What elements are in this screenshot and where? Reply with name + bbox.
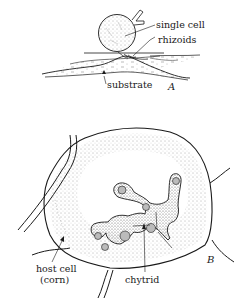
label-host-cell: host cell <box>36 263 77 274</box>
label-chytrid: chytrid <box>125 274 159 285</box>
chytrid-shape <box>91 174 181 244</box>
label-single-cell: single cell <box>156 19 205 30</box>
discharge-tube <box>132 10 144 25</box>
single-cell-shape <box>99 15 136 52</box>
substrate-shape <box>50 56 198 79</box>
label-substrate: substrate <box>107 79 153 90</box>
panel-a: single cell rhizoids substrate A <box>42 10 205 92</box>
panel-letter-b: B <box>206 254 214 265</box>
label-rhizoids: rhizoids <box>158 34 197 45</box>
label-host-cell-corn: (corn) <box>40 274 69 285</box>
panel-b: host cell (corn) chytrid B <box>18 128 234 298</box>
chytrid-figure: single cell rhizoids substrate A <box>0 0 241 303</box>
panel-letter-a: A <box>167 81 175 92</box>
